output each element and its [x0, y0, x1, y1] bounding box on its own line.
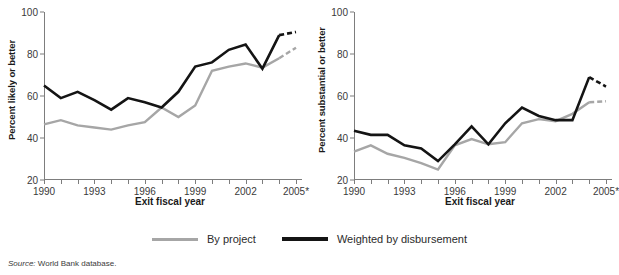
x-tick-mark-right: [404, 180, 405, 184]
x-axis-label-right: Exit fiscal year: [354, 196, 606, 207]
x-tick-mark-left: [94, 180, 95, 184]
x-tick-mark-left: [178, 180, 179, 184]
series-projection-by-project-left: [279, 48, 296, 59]
x-tick-mark-right: [522, 180, 523, 184]
source-note: Source: World Bank database.: [8, 259, 116, 268]
x-tick-mark-right: [539, 180, 540, 184]
figure-two-line-charts: Percent likely or better 204060801001990…: [0, 0, 619, 275]
x-tick-mark-left: [246, 180, 247, 184]
x-tick-mark-right: [505, 180, 506, 184]
y-axis-label-left: Percent likely or better: [2, 0, 20, 180]
x-tick-mark-right: [556, 180, 557, 184]
legend-item-by-project: By project: [152, 233, 256, 245]
x-tick-mark-left: [195, 180, 196, 184]
x-tick-mark-left: [212, 180, 213, 184]
x-tick-mark-left: [78, 180, 79, 184]
series-projection-by-project-right: [589, 101, 606, 102]
x-tick-mark-left: [262, 180, 263, 184]
x-tick-mark-right: [388, 180, 389, 184]
x-tick-mark-left: [162, 180, 163, 184]
series-projection-weighted-by-disbursement-right: [589, 77, 606, 86]
x-tick-mark-right: [488, 180, 489, 184]
x-tick-mark-left: [44, 180, 45, 184]
x-tick-mark-right: [438, 180, 439, 184]
x-tick-mark-left: [279, 180, 280, 184]
x-tick-mark-right: [354, 180, 355, 184]
x-tick-mark-right: [472, 180, 473, 184]
x-tick-mark-left: [111, 180, 112, 184]
x-tick-mark-right: [572, 180, 573, 184]
x-tick-mark-left: [296, 180, 297, 184]
x-tick-mark-left: [61, 180, 62, 184]
source-text: World Bank database.: [36, 259, 117, 268]
legend-swatch-by-project: [152, 238, 198, 241]
x-tick-mark-right: [589, 180, 590, 184]
chart-panel-right: Percent substantial or better 2040608010…: [310, 0, 619, 220]
legend-swatch-weighted-by-disbursement: [282, 237, 328, 241]
x-tick-mark-left: [128, 180, 129, 184]
legend-item-weighted-by-disbursement: Weighted by disbursement: [282, 233, 467, 245]
x-tick-mark-right: [371, 180, 372, 184]
x-tick-mark-left: [229, 180, 230, 184]
x-tick-mark-left: [145, 180, 146, 184]
series-projection-weighted-by-disbursement-left: [279, 32, 296, 35]
x-axis-label-left: Exit fiscal year: [44, 196, 296, 207]
y-axis-label-right: Percent substantial or better: [312, 0, 330, 180]
plot-area-right: 20406080100199019931996199920022005*: [354, 12, 606, 180]
series-line-weighted-by-disbursement-left: [44, 35, 279, 110]
source-prefix: Source:: [8, 259, 36, 268]
series-line-weighted-by-disbursement-right: [354, 77, 589, 161]
legend: By project Weighted by disbursement: [0, 228, 619, 250]
legend-label-by-project: By project: [207, 233, 256, 245]
x-tick-mark-right: [606, 180, 607, 184]
x-tick-mark-right: [421, 180, 422, 184]
plot-area-left: 20406080100199019931996199920022005*: [44, 12, 296, 180]
x-tick-mark-right: [455, 180, 456, 184]
chart-panel-left: Percent likely or better 204060801001990…: [0, 0, 309, 220]
series-layer-left: [44, 12, 296, 180]
legend-label-weighted-by-disbursement: Weighted by disbursement: [337, 233, 467, 245]
series-layer-right: [354, 12, 606, 180]
